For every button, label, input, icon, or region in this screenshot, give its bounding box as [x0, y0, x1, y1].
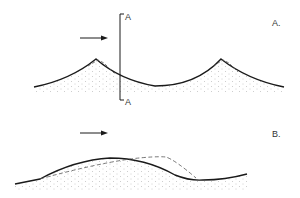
panel-label-a: A. [272, 18, 281, 28]
section-marker-bottom: A [125, 97, 131, 107]
wind-arrow-b [80, 131, 108, 136]
section-marker-top: A [125, 12, 131, 22]
panel-b: B. [15, 129, 281, 190]
panel-label-b: B. [272, 129, 281, 139]
wind-arrow-a [80, 36, 108, 41]
panel-a: A A A. [34, 12, 284, 107]
dune-diagram: A A A. B. [0, 0, 300, 198]
